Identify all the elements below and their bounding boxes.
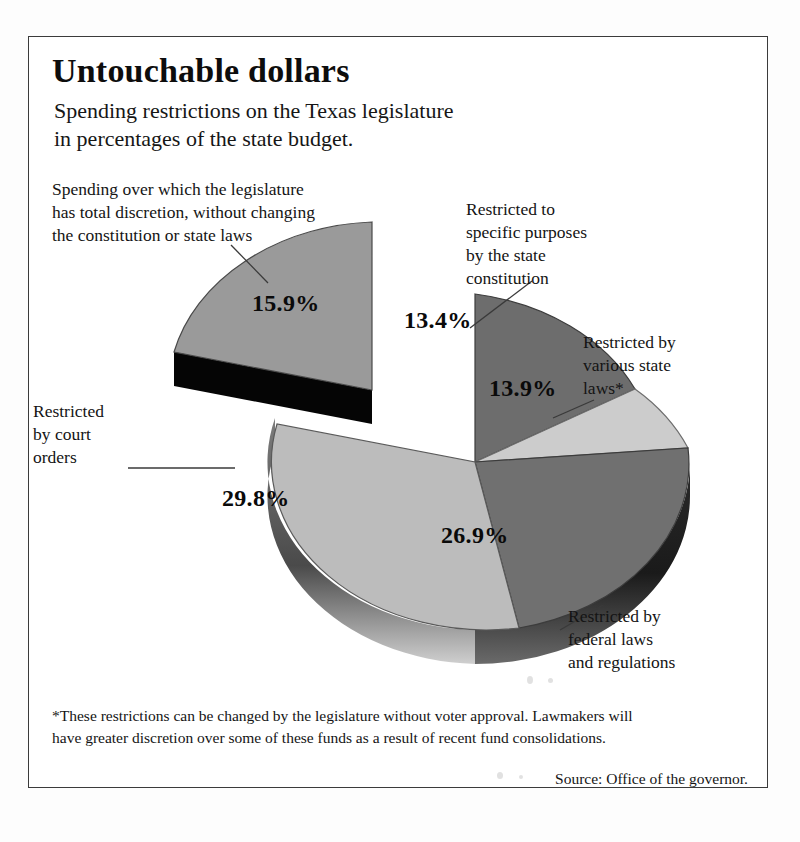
callout-discretion: Spending over which the legislature has … bbox=[52, 178, 315, 247]
slice-value-state-laws: 13.9% bbox=[489, 375, 557, 402]
scan-speckle bbox=[497, 772, 503, 779]
slice-value-court-orders: 29.8% bbox=[222, 485, 290, 512]
scan-speckle bbox=[548, 678, 553, 683]
slice-value-federal: 26.9% bbox=[441, 522, 509, 549]
clipping-page: Untouchable dollars Spending restriction… bbox=[0, 0, 800, 842]
page-title: Untouchable dollars bbox=[52, 52, 350, 90]
callout-federal-laws: Restricted by federal laws and regulatio… bbox=[568, 605, 675, 674]
scan-speckle bbox=[519, 775, 523, 779]
callout-state-laws: Restricted by various state laws* bbox=[583, 331, 676, 400]
source-line: Source: Office of the governor. bbox=[555, 770, 748, 788]
page-subtitle: Spending restrictions on the Texas legis… bbox=[54, 97, 453, 153]
slice-value-discretion: 15.9% bbox=[252, 290, 320, 317]
callout-constitution: Restricted to specific purposes by the s… bbox=[466, 198, 587, 290]
slice-value-constitution: 13.4% bbox=[404, 307, 472, 334]
pie-slice-discretion-group bbox=[174, 222, 372, 424]
callout-court-orders: Restricted by court orders bbox=[33, 400, 104, 469]
scan-speckle bbox=[527, 676, 533, 684]
footnote: *These restrictions can be changed by th… bbox=[52, 705, 732, 749]
